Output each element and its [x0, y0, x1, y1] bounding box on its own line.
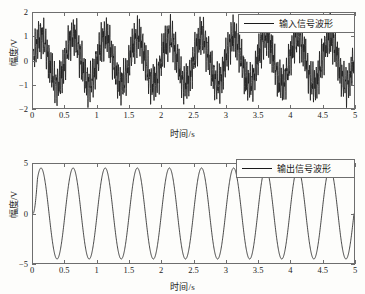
y-tick [32, 12, 36, 13]
y-tick [351, 12, 355, 13]
x-tick [161, 260, 162, 264]
x-tick [258, 260, 259, 264]
y-axis-title-input: 幅度/V [7, 23, 20, 83]
y-tick [32, 163, 36, 164]
x-tick [129, 12, 130, 16]
x-tick [194, 163, 195, 167]
x-tick [355, 105, 356, 109]
x-tick-label: 0.5 [59, 111, 70, 120]
x-tick-label: 2.5 [188, 111, 199, 120]
legend-line-swatch-icon [242, 168, 272, 169]
y-tick [351, 214, 355, 215]
x-tick [226, 260, 227, 264]
x-tick [161, 12, 162, 16]
y-tick [351, 61, 355, 62]
x-tick-label: 1.5 [124, 111, 135, 120]
x-tick-label: 1.5 [124, 266, 135, 275]
y-tick [351, 36, 355, 37]
x-tick-label: 4 [288, 266, 292, 275]
x-tick-label: 2.5 [188, 266, 199, 275]
chart-panel-input: 00.511.522.533.544.55 −2−1012 时间/s 幅度/V … [0, 0, 365, 150]
x-tick-label: 0 [30, 111, 34, 120]
x-tick [226, 12, 227, 16]
y-tick [32, 61, 36, 62]
x-tick [97, 260, 98, 264]
chart-panel-output: 00.511.522.533.544.55 −505 时间/s 幅度/V 输出信… [0, 150, 365, 294]
x-tick [323, 260, 324, 264]
x-tick [64, 12, 65, 16]
x-tick-label: 4 [288, 111, 292, 120]
x-tick [129, 163, 130, 167]
legend-line-swatch-icon [244, 23, 274, 24]
x-tick [194, 105, 195, 109]
y-tick [32, 36, 36, 37]
x-tick [97, 105, 98, 109]
output-waveform-line [33, 164, 354, 263]
x-tick-label: 0.5 [59, 266, 70, 275]
y-tick-label: 5 [4, 159, 28, 168]
x-tick-label: 3 [224, 111, 228, 120]
x-tick [290, 105, 291, 109]
legend-label-output: 输出信号波形 [277, 164, 331, 174]
x-tick [97, 12, 98, 16]
x-tick-label: 4.5 [317, 266, 328, 275]
y-tick-label: −2 [4, 105, 28, 114]
x-tick [161, 163, 162, 167]
y-tick-label: −5 [4, 260, 28, 269]
x-tick [161, 105, 162, 109]
legend-output: 输出信号波形 [236, 159, 355, 178]
x-tick-label: 2 [159, 266, 163, 275]
y-tick [32, 85, 36, 86]
x-tick [129, 260, 130, 264]
x-tick-label: 3.5 [253, 266, 264, 275]
x-tick [97, 163, 98, 167]
x-tick-label: 0 [30, 266, 34, 275]
x-tick [64, 260, 65, 264]
x-tick [226, 105, 227, 109]
y-axis-title-output: 幅度/V [7, 175, 20, 235]
figure-waveform-comparison: 00.511.522.533.544.55 −2−1012 时间/s 幅度/V … [0, 0, 365, 294]
x-tick [355, 12, 356, 16]
x-tick-label: 4.5 [317, 111, 328, 120]
x-axis-title-output: 时间/s [0, 280, 365, 293]
x-tick-label: 2 [159, 111, 163, 120]
x-tick [355, 163, 356, 167]
x-tick-label: 1 [94, 266, 98, 275]
x-tick-label: 1 [94, 111, 98, 120]
legend-input: 输入信号波形 [238, 14, 355, 33]
plot-area-output [32, 163, 355, 264]
legend-label-input: 输入信号波形 [279, 19, 333, 29]
y-tick-label: 2 [4, 8, 28, 17]
x-tick [258, 105, 259, 109]
x-tick [64, 163, 65, 167]
x-tick-label: 5 [353, 111, 357, 120]
x-tick-label: 3.5 [253, 111, 264, 120]
x-tick [290, 260, 291, 264]
y-tick [351, 85, 355, 86]
x-axis-title-input: 时间/s [0, 127, 365, 140]
x-tick [194, 12, 195, 16]
y-tick [32, 214, 36, 215]
x-tick [226, 163, 227, 167]
x-tick [64, 105, 65, 109]
x-tick [323, 105, 324, 109]
x-tick [129, 105, 130, 109]
x-tick [194, 260, 195, 264]
x-tick-label: 5 [353, 266, 357, 275]
x-tick-label: 3 [224, 266, 228, 275]
x-tick [355, 260, 356, 264]
